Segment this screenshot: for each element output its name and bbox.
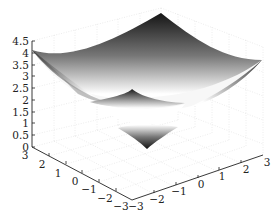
- svg-text:2: 2: [243, 163, 250, 175]
- svg-text:3: 3: [264, 156, 271, 168]
- svg-text:1.5: 1.5: [12, 106, 29, 118]
- svg-text:4.5: 4.5: [12, 35, 29, 47]
- x-axis-labels: −3 −2 −1 0 1 2 3: [128, 156, 270, 212]
- svg-text:1: 1: [219, 170, 226, 182]
- svg-text:1: 1: [22, 117, 29, 129]
- svg-text:2: 2: [39, 158, 46, 170]
- svg-text:−3: −3: [128, 200, 143, 212]
- svg-text:−2: −2: [149, 193, 164, 205]
- svg-text:2.5: 2.5: [12, 82, 29, 94]
- svg-text:3: 3: [22, 70, 29, 82]
- svg-text:−3: −3: [113, 200, 128, 212]
- svg-text:4: 4: [22, 47, 29, 59]
- svg-text:−1: −1: [171, 185, 186, 197]
- svg-text:0: 0: [72, 175, 79, 187]
- surface-plot: 0 0.5 1 1.5 2 2.5 3 3.5 4 4.5 3 2 1 0 −1…: [0, 0, 275, 212]
- z-axis-labels: 0 0.5 1 1.5 2 2.5 3 3.5 4 4.5: [12, 35, 29, 153]
- svg-text:−2: −2: [97, 192, 112, 204]
- svg-text:1: 1: [55, 167, 62, 179]
- svg-text:2: 2: [22, 94, 29, 106]
- svg-text:3.5: 3.5: [12, 59, 29, 71]
- y-axis-labels: 3 2 1 0 −1 −2 −3: [22, 149, 129, 212]
- svg-text:0.5: 0.5: [12, 129, 29, 141]
- surface: [32, 13, 262, 149]
- svg-text:−1: −1: [81, 183, 96, 195]
- svg-text:3: 3: [22, 149, 29, 161]
- svg-text:0: 0: [198, 178, 205, 190]
